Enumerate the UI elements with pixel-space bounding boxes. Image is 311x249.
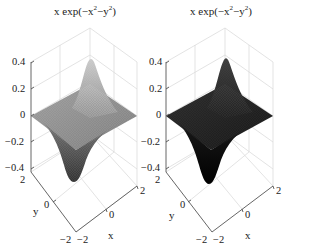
z-tick-label: 0.2 xyxy=(149,84,162,95)
plot-canvas xyxy=(0,0,156,249)
x-axis-label: x xyxy=(245,230,251,241)
z-tick-label: −0.2 xyxy=(5,137,24,148)
z-tick-label: 0 xyxy=(156,110,161,121)
z-tick-label: −0.4 xyxy=(141,163,160,174)
x-tick-label: 0 xyxy=(245,210,250,221)
x-axis xyxy=(76,186,137,232)
y-tick-label: −2 xyxy=(60,235,71,246)
y-axis-label: y xyxy=(169,210,175,221)
surface-plot-right: x exp(−x2−y2) 0.4 0.2 0 −0.2 −0.4 2 0 −2… xyxy=(155,0,311,249)
plot-title: x exp(−x2−y2) xyxy=(190,4,252,17)
z-tick-label: −0.4 xyxy=(5,163,24,174)
x-tick-label: 0 xyxy=(109,210,114,221)
plot-title: x exp(−x2−y2) xyxy=(54,4,116,17)
x-axis-label: x xyxy=(108,230,114,241)
z-tick-label: 0.2 xyxy=(12,84,25,95)
z-tick-label: 0.4 xyxy=(12,57,25,68)
plot-canvas xyxy=(155,0,311,249)
y-tick-label: 2 xyxy=(20,175,25,186)
x-tick-label: −2 xyxy=(77,235,88,246)
z-tick-label: 0 xyxy=(20,110,25,121)
z-tick-label: 0.4 xyxy=(149,57,162,68)
y-axis-label: y xyxy=(33,206,39,217)
y-tick-label: 0 xyxy=(180,200,185,211)
y-tick-label: 0 xyxy=(44,200,49,211)
x-tick-label: 2 xyxy=(276,186,281,197)
x-tick-label: −2 xyxy=(213,235,224,246)
z-tick-label: −0.2 xyxy=(141,137,160,148)
y-tick-label: −2 xyxy=(196,235,207,246)
x-tick-label: 2 xyxy=(140,186,145,197)
surface-mesh xyxy=(166,58,273,184)
surface-plot-left: x exp(−x2−y2) 0.4 0.2 0 −0.2 −0.4 2 0 −2… xyxy=(0,0,156,249)
y-tick-label: 2 xyxy=(155,175,160,186)
x-axis xyxy=(212,186,273,232)
